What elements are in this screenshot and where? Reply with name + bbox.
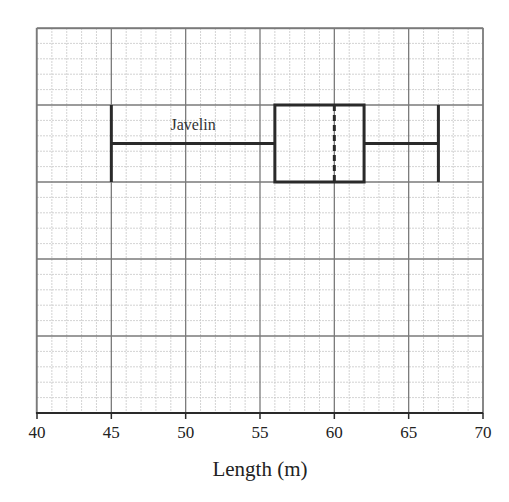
x-tick-label: 50 [177, 423, 194, 442]
x-tick-label: 65 [400, 423, 417, 442]
x-tick-label: 55 [252, 423, 269, 442]
x-tick-label: 60 [326, 423, 343, 442]
x-axis-title: Length (m) [212, 457, 307, 481]
grid-major-lines [37, 28, 483, 413]
box-plot-series: Javelin [111, 105, 438, 182]
box-javelin: Javelin [111, 105, 438, 182]
x-axis-ticks: 40455055606570 [29, 413, 492, 442]
box-plot-chart: 40455055606570 Javelin Length (m) [0, 0, 509, 502]
x-tick-label: 70 [475, 423, 492, 442]
x-tick-label: 40 [29, 423, 46, 442]
x-tick-label: 45 [103, 423, 120, 442]
series-label: Javelin [170, 116, 215, 133]
